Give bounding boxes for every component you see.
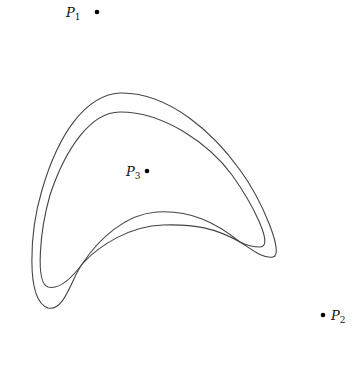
diagram-canvas: P1 P2 P3 <box>0 0 355 369</box>
point-p1-dot <box>95 10 100 15</box>
inner-curve <box>40 112 265 287</box>
point-p1: P1 <box>65 5 99 22</box>
point-p2-dot <box>321 313 326 318</box>
point-p1-label: P1 <box>65 5 80 22</box>
point-p3-label: P3 <box>125 164 141 181</box>
point-p2: P2 <box>321 308 346 325</box>
point-p3-dot <box>145 169 150 174</box>
point-p2-label: P2 <box>330 308 345 325</box>
outer-curve <box>32 93 276 308</box>
point-p3: P3 <box>125 164 149 181</box>
